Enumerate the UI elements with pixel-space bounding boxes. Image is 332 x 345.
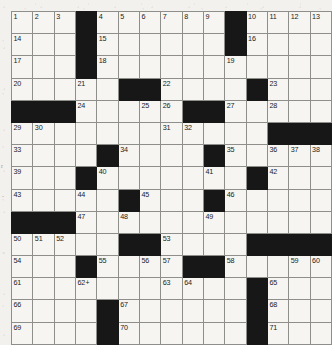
- grid-cell-white[interactable]: [289, 100, 310, 122]
- grid-cell-white[interactable]: 23: [267, 78, 288, 100]
- grid-cell-white[interactable]: 6: [139, 12, 160, 34]
- grid-cell-white[interactable]: [225, 167, 246, 189]
- grid-cell-white[interactable]: [182, 34, 203, 56]
- grid-cell-white[interactable]: [203, 122, 224, 144]
- grid-cell-white[interactable]: [118, 256, 139, 278]
- grid-cell-white[interactable]: [75, 300, 96, 322]
- grid-cell-white[interactable]: [54, 256, 75, 278]
- grid-cell-white[interactable]: [182, 189, 203, 211]
- grid-cell-white[interactable]: [33, 322, 54, 344]
- grid-cell-white[interactable]: [289, 167, 310, 189]
- grid-cell-white[interactable]: [310, 100, 331, 122]
- grid-cell-white[interactable]: [182, 300, 203, 322]
- grid-cell-white[interactable]: [182, 145, 203, 167]
- grid-cell-white[interactable]: [54, 56, 75, 78]
- grid-cell-white[interactable]: [97, 211, 118, 233]
- grid-cell-white[interactable]: [310, 211, 331, 233]
- grid-cell-white[interactable]: 46: [225, 189, 246, 211]
- grid-cell-white[interactable]: [75, 233, 96, 255]
- grid-cell-white[interactable]: [246, 211, 267, 233]
- grid-cell-white[interactable]: [267, 189, 288, 211]
- grid-cell-white[interactable]: [139, 34, 160, 56]
- grid-cell-white[interactable]: [33, 145, 54, 167]
- grid-cell-white[interactable]: 68: [267, 300, 288, 322]
- grid-cell-white[interactable]: 18: [97, 56, 118, 78]
- grid-cell-white[interactable]: 25: [139, 100, 160, 122]
- grid-cell-white[interactable]: 20: [12, 78, 33, 100]
- grid-cell-white[interactable]: [267, 56, 288, 78]
- grid-cell-white[interactable]: [203, 233, 224, 255]
- grid-cell-white[interactable]: [182, 56, 203, 78]
- grid-cell-white[interactable]: [54, 78, 75, 100]
- grid-cell-white[interactable]: [225, 122, 246, 144]
- grid-cell-white[interactable]: [33, 167, 54, 189]
- grid-cell-white[interactable]: [289, 300, 310, 322]
- grid-cell-white[interactable]: [225, 233, 246, 255]
- grid-cell-white[interactable]: 36: [267, 145, 288, 167]
- grid-cell-white[interactable]: [310, 300, 331, 322]
- grid-cell-white[interactable]: 52: [54, 233, 75, 255]
- grid-cell-white[interactable]: [118, 34, 139, 56]
- grid-cell-white[interactable]: 38: [310, 145, 331, 167]
- grid-cell-white[interactable]: [139, 278, 160, 300]
- grid-cell-white[interactable]: [33, 78, 54, 100]
- grid-cell-white[interactable]: [54, 322, 75, 344]
- grid-cell-white[interactable]: 1: [12, 12, 33, 34]
- grid-cell-white[interactable]: 67: [118, 300, 139, 322]
- grid-cell-white[interactable]: 62+: [75, 278, 96, 300]
- grid-cell-white[interactable]: [161, 34, 182, 56]
- grid-cell-white[interactable]: 30: [33, 122, 54, 144]
- grid-cell-white[interactable]: 19: [225, 56, 246, 78]
- grid-cell-white[interactable]: [97, 233, 118, 255]
- grid-cell-white[interactable]: 64: [182, 278, 203, 300]
- grid-cell-white[interactable]: [182, 78, 203, 100]
- grid-cell-white[interactable]: [289, 34, 310, 56]
- grid-cell-white[interactable]: 40: [97, 167, 118, 189]
- grid-cell-white[interactable]: 65: [267, 278, 288, 300]
- grid-cell-white[interactable]: 27: [225, 100, 246, 122]
- grid-cell-white[interactable]: 16: [246, 34, 267, 56]
- grid-cell-white[interactable]: [182, 322, 203, 344]
- grid-cell-white[interactable]: 14: [12, 34, 33, 56]
- grid-cell-white[interactable]: 31: [161, 122, 182, 144]
- grid-cell-white[interactable]: 45: [139, 189, 160, 211]
- grid-cell-white[interactable]: 66: [12, 300, 33, 322]
- grid-cell-white[interactable]: [310, 167, 331, 189]
- grid-cell-white[interactable]: [289, 278, 310, 300]
- grid-cell-white[interactable]: [139, 300, 160, 322]
- grid-cell-white[interactable]: [289, 56, 310, 78]
- grid-cell-white[interactable]: 28: [267, 100, 288, 122]
- grid-cell-white[interactable]: 4: [97, 12, 118, 34]
- grid-cell-white[interactable]: [310, 34, 331, 56]
- grid-cell-white[interactable]: 17: [12, 56, 33, 78]
- grid-cell-white[interactable]: 26: [161, 100, 182, 122]
- grid-cell-white[interactable]: 43: [12, 189, 33, 211]
- grid-cell-white[interactable]: 15: [97, 34, 118, 56]
- grid-cell-white[interactable]: 2: [33, 12, 54, 34]
- grid-cell-white[interactable]: 29: [12, 122, 33, 144]
- grid-cell-white[interactable]: [246, 189, 267, 211]
- grid-cell-white[interactable]: 5: [118, 12, 139, 34]
- grid-cell-white[interactable]: 55: [97, 256, 118, 278]
- grid-cell-white[interactable]: [54, 122, 75, 144]
- grid-cell-white[interactable]: [246, 256, 267, 278]
- grid-cell-white[interactable]: [118, 100, 139, 122]
- grid-cell-white[interactable]: [161, 322, 182, 344]
- grid-cell-white[interactable]: 33: [12, 145, 33, 167]
- grid-cell-white[interactable]: [267, 211, 288, 233]
- grid-cell-white[interactable]: [289, 211, 310, 233]
- grid-cell-white[interactable]: [289, 189, 310, 211]
- grid-cell-white[interactable]: [225, 300, 246, 322]
- grid-cell-white[interactable]: [97, 278, 118, 300]
- grid-cell-white[interactable]: [75, 122, 96, 144]
- grid-cell-white[interactable]: 50: [12, 233, 33, 255]
- grid-cell-white[interactable]: [33, 189, 54, 211]
- grid-cell-white[interactable]: [267, 256, 288, 278]
- grid-cell-white[interactable]: 69: [12, 322, 33, 344]
- grid-cell-white[interactable]: 13: [310, 12, 331, 34]
- grid-cell-white[interactable]: 48: [118, 211, 139, 233]
- grid-cell-white[interactable]: [203, 300, 224, 322]
- grid-cell-white[interactable]: 53: [161, 233, 182, 255]
- grid-cell-white[interactable]: 8: [182, 12, 203, 34]
- grid-cell-white[interactable]: [139, 322, 160, 344]
